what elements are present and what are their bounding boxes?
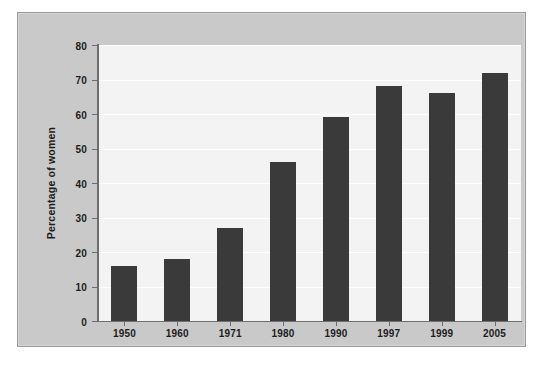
x-tick-label: 1960 <box>166 328 189 339</box>
y-tick-label: 0 <box>81 316 87 327</box>
bar <box>482 73 508 321</box>
x-tick-label: 1971 <box>219 328 242 339</box>
y-axis-title: Percentage of women <box>45 127 57 239</box>
x-tick-label: 1950 <box>113 328 136 339</box>
bar-series <box>98 45 521 321</box>
chart-page: 01020304050607080 1950196019711980199019… <box>0 0 543 370</box>
y-tick-label: 40 <box>75 178 87 189</box>
y-tick-label: 80 <box>75 40 87 51</box>
bar <box>164 259 190 321</box>
x-tick-mark <box>124 322 125 326</box>
y-tick-label: 50 <box>75 144 87 155</box>
bar <box>111 266 137 321</box>
y-tick-label: 30 <box>75 213 87 224</box>
y-tick-mark <box>92 321 98 322</box>
bar <box>429 93 455 321</box>
x-tick-mark <box>283 322 284 326</box>
x-tick-mark <box>177 322 178 326</box>
bar <box>270 162 296 321</box>
x-tick-mark <box>495 322 496 326</box>
bar <box>376 86 402 321</box>
bar <box>217 228 243 321</box>
x-tick-mark <box>389 322 390 326</box>
bar <box>323 117 349 321</box>
y-tick-label: 10 <box>75 282 87 293</box>
x-tick-label: 1980 <box>272 328 295 339</box>
y-tick-label: 20 <box>75 247 87 258</box>
x-tick-mark <box>230 322 231 326</box>
x-tick-mark <box>336 322 337 326</box>
y-tick-label: 60 <box>75 109 87 120</box>
x-tick-label: 1997 <box>377 328 400 339</box>
x-tick-label: 1990 <box>324 328 347 339</box>
y-tick-label: 70 <box>75 75 87 86</box>
x-tick-mark <box>442 322 443 326</box>
x-axis-line <box>97 321 522 322</box>
x-tick-label: 1999 <box>430 328 453 339</box>
y-tick: 0 <box>92 321 98 322</box>
x-tick-label: 2005 <box>483 328 506 339</box>
figure-frame: 01020304050607080 1950196019711980199019… <box>17 12 526 347</box>
